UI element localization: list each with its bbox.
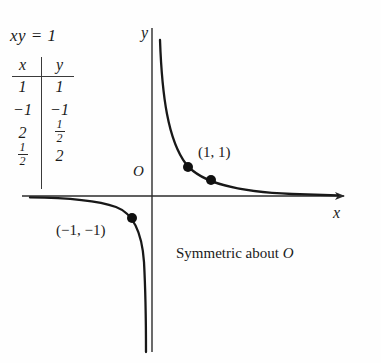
point-label-neg1-neg1: (−1, −1) xyxy=(56,222,105,239)
x-axis-label: x xyxy=(333,204,340,222)
symmetry-caption: Symmetric about O xyxy=(176,245,294,262)
hyperbola-branch-first-quadrant xyxy=(160,40,338,195)
marked-point-2-half xyxy=(206,175,216,185)
graph-canvas xyxy=(0,0,381,363)
point-label-1-1: (1, 1) xyxy=(198,144,231,161)
symmetry-caption-point: O xyxy=(283,245,294,261)
origin-label: O xyxy=(133,163,144,180)
symmetry-caption-text: Symmetric about xyxy=(176,245,283,261)
marked-point-1-1 xyxy=(183,162,193,172)
marked-point-neg1-neg1 xyxy=(127,213,137,223)
y-axis-label: y xyxy=(141,24,148,42)
hyperbola-figure: xy = 1 x y 1 1 −1 −1 2 1 2 xyxy=(0,0,381,363)
